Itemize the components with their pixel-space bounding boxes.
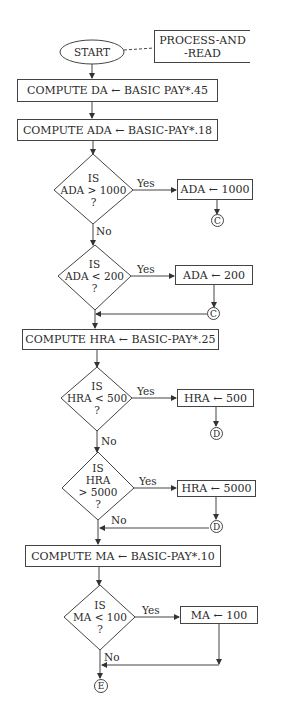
connector-label: D [213,429,220,439]
no-label: No [104,651,120,663]
connector-c: C [211,214,224,227]
process-label: COMPUTE ADA ← BASIC-PAY*.18 [23,124,212,137]
process-compute-da: COMPUTE DA ← BASIC PAY*.45 [17,79,218,102]
decision-text: IS [58,258,131,270]
start-label: START [74,46,110,58]
decision-text: HRA [62,474,134,486]
process-label: COMPUTE MA ← BASIC-PAY*.10 [31,550,215,563]
decision-text: ? [64,623,136,635]
yes-label: Yes [137,263,155,275]
decision-ada-gt-1000: IS ADA > 1000 ? [55,172,132,208]
no-label: No [101,435,117,447]
process-compute-ma: COMPUTE MA ← BASIC-PAY*.10 [25,545,221,567]
action-ma-100: MA ← 100 [180,606,258,624]
process-compute-hra: COMPUTE HRA ← BASIC-PAY*.25 [22,329,219,350]
decision-text: ? [62,498,134,510]
action-label: HRA ← 5000 [181,482,251,495]
decision-text: IS [55,172,132,184]
decision-text: ADA < 200 [58,270,131,282]
start-terminal: START [60,46,124,58]
decision-text: IS [62,462,134,474]
no-label: No [96,225,112,237]
connector-e: E [94,679,108,693]
decision-ma-lt-100: IS MA < 100 ? [64,599,136,635]
no-label: No [111,514,127,526]
decision-ada-lt-200: IS ADA < 200 ? [58,258,131,294]
decision-text: HRA < 500 [61,392,133,404]
annotation-comment: PROCESS-AND -READ [154,30,250,63]
decision-text: ? [55,196,132,208]
decision-hra-gt-5000: IS HRA > 5000 ? [62,462,134,510]
decision-text: IS [64,599,136,611]
connector-d: D [210,427,223,440]
action-hra-5000: HRA ← 5000 [177,480,256,497]
action-label: ADA ← 1000 [181,183,250,196]
annotation-line-2: -READ [155,47,250,60]
process-compute-ada: COMPUTE ADA ← BASIC-PAY*.18 [17,119,218,141]
yes-label: Yes [139,475,157,487]
action-ada-1000: ADA ← 1000 [177,179,253,200]
yes-label: Yes [137,385,155,397]
connector-label: C [210,309,217,319]
decision-text: MA < 100 [64,611,136,623]
process-label: COMPUTE DA ← BASIC PAY*.45 [27,84,208,97]
decision-text: > 5000 [62,486,134,498]
action-ada-200: ADA ← 200 [175,265,253,285]
decision-text: ? [61,404,133,416]
connector-c: C [207,307,220,320]
yes-label: Yes [142,604,160,616]
action-label: MA ← 100 [191,609,247,622]
yes-label: Yes [137,177,155,189]
connector-label: D [213,522,220,532]
action-label: HRA ← 500 [184,392,247,405]
action-label: ADA ← 200 [183,269,245,282]
decision-text: IS [61,380,133,392]
connector-label: E [98,681,105,691]
decision-hra-lt-500: IS HRA < 500 ? [61,380,133,416]
decision-text: ADA > 1000 [55,184,132,196]
decision-text: ? [58,282,131,294]
connector-label: C [214,216,221,226]
annotation-line-1: PROCESS-AND [155,34,250,47]
connector-d: D [210,520,223,533]
process-label: COMPUTE HRA ← BASIC-PAY*.25 [25,333,215,346]
action-hra-500: HRA ← 500 [177,389,254,407]
